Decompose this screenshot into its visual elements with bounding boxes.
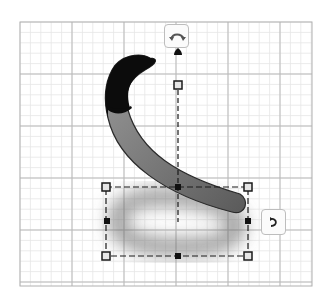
resize-handle-bottom-right[interactable] [244, 252, 252, 260]
resize-handle-top-left[interactable] [102, 183, 110, 191]
resize-handle-top-mid[interactable] [175, 184, 181, 190]
rotate-top-gizmo-button[interactable] [164, 24, 189, 48]
resize-handle-right-mid[interactable] [245, 218, 251, 224]
resize-handle-bottom-left[interactable] [102, 252, 110, 260]
resize-handle-bottom-mid[interactable] [175, 253, 181, 259]
rotate-arc-icon [165, 25, 190, 49]
resize-handle-left-mid[interactable] [104, 218, 110, 224]
height-handle[interactable] [174, 81, 182, 89]
lift-arrow-icon[interactable] [174, 48, 182, 55]
resize-handle-top-right[interactable] [244, 183, 252, 191]
rotate-side-gizmo-button[interactable] [261, 209, 286, 235]
rotate-hook-icon [262, 210, 287, 236]
